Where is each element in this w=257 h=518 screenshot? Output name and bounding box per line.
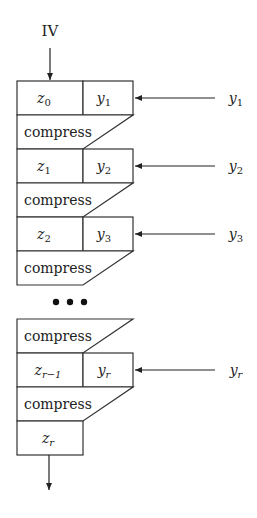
- dot-icon: [53, 299, 59, 305]
- compress-block-1: compress: [17, 115, 133, 149]
- compress-label: compress: [24, 396, 92, 412]
- stage-2: z2 y3 y3: [17, 217, 243, 251]
- final-output-block: zr: [17, 421, 83, 490]
- dot-icon: [81, 299, 87, 305]
- input-label: y2: [228, 158, 243, 176]
- input-label: y1: [228, 90, 243, 108]
- diagram-canvas: IV z0 y1 y1 compress z1 y2 y2 compress z…: [0, 0, 257, 518]
- compress-block-3: compress: [17, 251, 133, 285]
- stage-1: z1 y2 y2: [17, 149, 243, 183]
- compress-label: compress: [24, 192, 92, 208]
- dot-icon: [67, 299, 73, 305]
- compress-block-2: compress: [17, 183, 133, 217]
- compress-block-5: compress: [17, 387, 133, 421]
- compress-label: compress: [24, 260, 92, 276]
- stage-r-minus-1: zr−1 yr yr: [17, 353, 244, 387]
- compress-label: compress: [24, 328, 92, 344]
- stage-0: z0 y1 y1: [17, 81, 243, 115]
- input-label: yr: [229, 362, 244, 380]
- input-label: y3: [228, 226, 243, 244]
- compress-label: compress: [24, 124, 92, 140]
- iv-label: IV: [42, 22, 60, 40]
- ellipsis: [53, 299, 87, 305]
- compress-block-4: compress: [17, 319, 133, 353]
